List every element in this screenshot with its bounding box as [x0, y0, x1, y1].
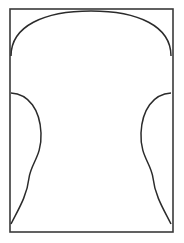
figure-canvas [0, 0, 184, 243]
line-drawing-figure [0, 0, 184, 243]
drawing-background [0, 0, 184, 243]
